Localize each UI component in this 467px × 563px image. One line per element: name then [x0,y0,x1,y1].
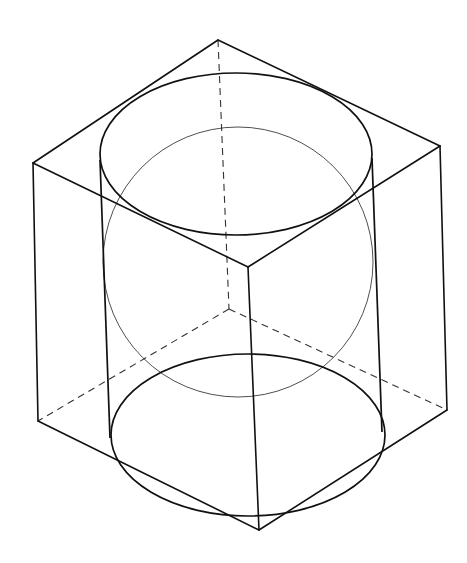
cube-edge [248,267,259,530]
hidden-edge [38,309,229,421]
cube-edge [248,146,440,267]
cube-cylinder-sphere-diagram [0,0,467,563]
cylinder-top-ellipse [100,73,372,235]
cube-edge [38,421,259,530]
cube-hidden-edges [38,40,447,421]
cylinder-bottom-ellipse [111,354,385,516]
hidden-edge [218,40,229,309]
cube-visible-edges [33,40,447,530]
cube-edge [440,146,447,410]
cube-edge [33,163,248,267]
cylinder-side [372,158,382,432]
cube-edge [259,410,447,530]
cube-edge [33,40,218,163]
cube-edge [33,163,38,421]
inscribed-cylinder [100,73,385,516]
cube-edge [218,40,440,146]
